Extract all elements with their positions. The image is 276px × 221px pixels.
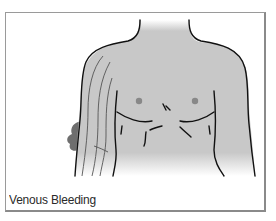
torso-body [75, 20, 255, 176]
torso-illustration [0, 0, 276, 221]
rib-mark-right [209, 126, 210, 134]
figure-caption: Venous Bleeding [9, 192, 96, 207]
left-nipple [136, 98, 142, 104]
right-nipple [192, 98, 198, 104]
rib-mark-left [121, 126, 122, 134]
